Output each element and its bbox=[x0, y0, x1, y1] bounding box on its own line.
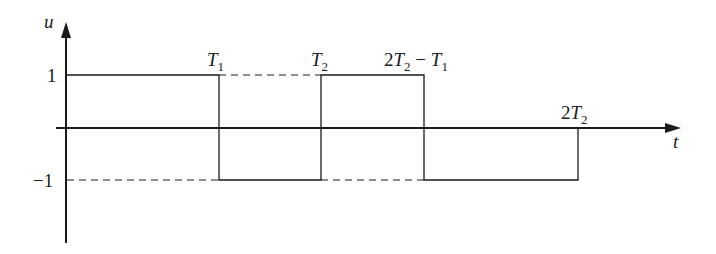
y-tick-minus1: −1 bbox=[33, 170, 53, 191]
marker-T2: T2 bbox=[311, 49, 328, 74]
square-wave-diagram: u t 1 −1 T1 T2 2T2 − T1 2T2 bbox=[0, 0, 716, 254]
y-tick-1: 1 bbox=[47, 65, 57, 86]
marker-T1: T1 bbox=[207, 49, 224, 74]
y-axis-arrow-icon bbox=[61, 22, 71, 38]
x-axis-label: t bbox=[673, 131, 679, 152]
y-axis-label: u bbox=[44, 11, 54, 32]
marker-2T2-minus-T1: 2T2 − T1 bbox=[384, 49, 448, 74]
marker-2T2: 2T2 bbox=[561, 102, 588, 127]
